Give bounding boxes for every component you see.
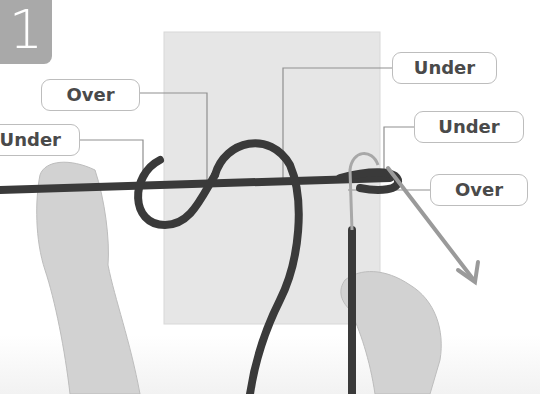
step-number-badge: 1 bbox=[0, 0, 52, 64]
label-under-left: Under bbox=[0, 124, 80, 156]
label-over-left: Over bbox=[41, 79, 140, 111]
label-under-top: Under bbox=[392, 52, 497, 84]
label-over-right: Over bbox=[430, 174, 528, 206]
label-under-right: Under bbox=[414, 111, 524, 143]
knot-illustration: 1 Over Under Under Under Over bbox=[0, 0, 540, 394]
left-hand bbox=[37, 162, 140, 394]
